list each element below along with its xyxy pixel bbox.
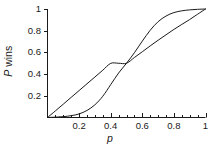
- data-series-line: [48, 9, 206, 118]
- y-axis-tick-label: 1: [8, 4, 41, 14]
- data-series-group: [48, 9, 206, 118]
- y-axis-title: P wins: [3, 31, 14, 91]
- x-axis-tick-label: 0.6: [128, 121, 156, 131]
- y-axis-title-symbol: P: [2, 70, 14, 77]
- chart-container: 0.20.40.60.81 0.20.40.60.81 p P wins: [0, 0, 220, 154]
- x-axis-tick-label: 0.4: [97, 121, 125, 131]
- y-axis-tick-label: 0.2: [8, 91, 41, 101]
- y-axis-tick-marks: [44, 10, 48, 97]
- x-axis-tick-label: 0.2: [65, 121, 93, 131]
- x-axis-tick-label: 0.8: [160, 121, 188, 131]
- y-axis-title-word: wins: [2, 46, 14, 70]
- x-axis-title: p: [0, 133, 220, 144]
- x-axis-tick-label: 1: [192, 121, 220, 131]
- x-axis-tick-marks: [56, 113, 207, 118]
